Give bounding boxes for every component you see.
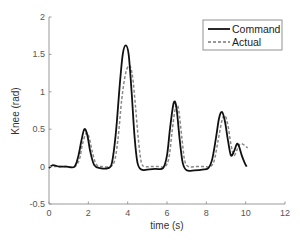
y-tick-label: -0.5 [29,199,45,209]
y-tick-label: 1.5 [32,49,45,59]
x-axis-label: time (s) [150,220,183,231]
series-layer [49,45,248,171]
x-tick-label: 12 [280,208,290,218]
legend-actual-label: Actual [232,36,261,48]
y-ticks: -0.500.511.52 [29,12,51,209]
x-tick-label: 8 [204,208,209,218]
y-tick-label: 0.5 [32,124,45,134]
legend-command-label: Command [232,23,281,35]
x-tick-label: 0 [46,208,51,218]
y-tick-label: 2 [40,12,45,22]
y-tick-label: 0 [40,162,45,172]
y-axis-label: Knee (rad) [10,87,21,134]
series-line-command [49,45,247,171]
x-tick-label: 6 [164,208,169,218]
legend: Command Actual [203,20,282,50]
x-tick-label: 2 [86,208,91,218]
y-tick-label: 1 [40,87,45,97]
x-tick-label: 4 [125,208,130,218]
knee-chart: 024681012 -0.500.511.52 time (s) Knee (r… [0,0,300,242]
x-tick-label: 10 [241,208,251,218]
